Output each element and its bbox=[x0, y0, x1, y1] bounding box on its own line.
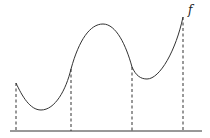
function-label: f bbox=[187, 3, 195, 17]
function-diagram: f bbox=[0, 0, 210, 138]
function-curve bbox=[16, 17, 183, 110]
